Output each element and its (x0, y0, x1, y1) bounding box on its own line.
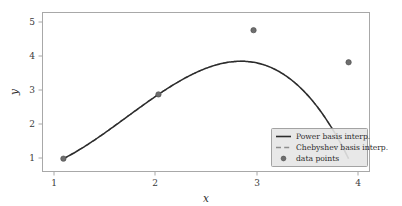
y-tick-label-5: 5 (29, 17, 35, 27)
x-axis-title: x (203, 192, 209, 204)
legend-label-data-points: data points (296, 154, 339, 163)
x-tick-label-2: 2 (152, 178, 158, 188)
circle-dot-icon (281, 156, 286, 161)
y-tick-label-3: 3 (29, 85, 35, 95)
data-point (251, 27, 256, 32)
y-tick-label-1: 1 (29, 153, 35, 163)
y-tick-label-2: 2 (29, 119, 35, 129)
y-tick-label-4: 4 (29, 51, 35, 61)
x-axis-tickmarks (54, 172, 358, 176)
chart-legend[interactable]: Power basis interp. Chebyshev basis inte… (272, 129, 389, 167)
y-axis-title: y (8, 88, 20, 96)
y-axis-tickmarks (39, 22, 43, 158)
x-tick-label-3: 3 (254, 178, 260, 188)
legend-label-power-basis: Power basis interp. (296, 132, 370, 141)
interpolation-line-chart: 1 2 3 4 1 2 3 4 5 x y Power basis interp… (0, 0, 402, 206)
x-tick-label-4: 4 (355, 178, 361, 188)
legend-label-chebyshev-basis: Chebyshev basis interp. (296, 143, 388, 152)
data-point (61, 156, 66, 161)
chart-figure: 1 2 3 4 1 2 3 4 5 x y Power basis interp… (0, 0, 402, 206)
data-point (156, 92, 161, 97)
x-tick-label-1: 1 (51, 178, 57, 188)
data-point (346, 60, 351, 65)
